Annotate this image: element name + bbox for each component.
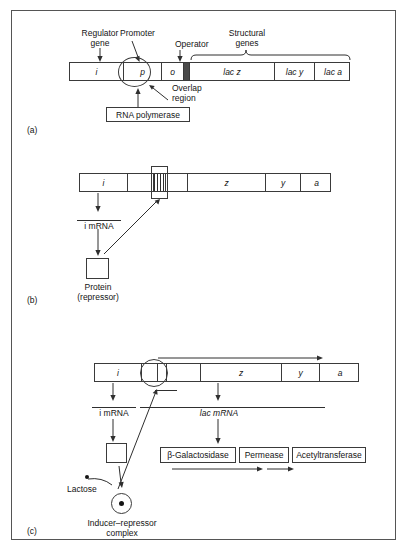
- figure-frame: Regulator gene Promoter Operator Structu…: [11, 10, 396, 540]
- label-inducer-repressor-complex: Inducer–repressor complex: [74, 519, 170, 538]
- label-i-mrna: i mRNA: [90, 409, 138, 419]
- enzyme-acetyltransferase: Acetyltransferase: [292, 447, 366, 463]
- enzyme-beta-galactosidase: β-Galactosidase: [160, 447, 236, 463]
- enzyme-permease: Permease: [239, 447, 289, 463]
- lactose-dot: [85, 475, 89, 479]
- panel-label-c: (c): [27, 526, 37, 536]
- repressor-protein-box: [106, 443, 127, 463]
- label-lactose: Lactose: [67, 485, 97, 495]
- inducer-repressor-center-dot: [119, 501, 124, 506]
- complex-line2: complex: [74, 529, 170, 539]
- operator-tick: [155, 390, 177, 391]
- panel-c-leaders: [12, 11, 397, 555]
- label-lac-mrna: lac mRNA: [184, 409, 254, 419]
